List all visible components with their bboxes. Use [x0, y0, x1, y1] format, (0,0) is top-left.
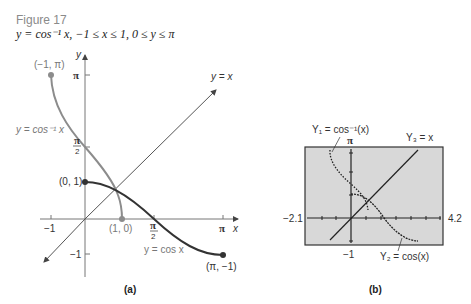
tick-x-pi: π: [219, 222, 225, 234]
xmax-label: 4.2: [448, 213, 462, 224]
svg-text:π: π: [150, 219, 156, 231]
panel-b-label: (b): [369, 284, 382, 295]
label-cosine: y = cos x: [144, 244, 184, 255]
tick-x-neg1: −1: [44, 223, 56, 234]
svg-text:2: 2: [75, 147, 80, 156]
identity-line: [85, 90, 216, 219]
point-neg1-pi: [48, 72, 54, 78]
figure-canvas: −1 π 2 π x y π π 2 −1 (−1, π) (1, 0) (0,…: [0, 0, 471, 304]
label-neg1-pi: (−1, π): [34, 59, 65, 70]
label-identity: y = x: [210, 71, 233, 82]
x-axis-label: x: [232, 223, 239, 234]
point-1-0: [119, 216, 125, 222]
panel-b: −2.1 4.2 −1 π Y₁ = cos⁻¹(x) Y₃ = x Y₂ = …: [283, 124, 462, 295]
ymin-label: −1: [343, 249, 355, 260]
label-y3: Y₃ = x: [406, 132, 433, 143]
label-inverse-cosine: y = cos⁻¹ x: [15, 124, 65, 135]
label-y1: Y₁ = cos⁻¹(x): [312, 124, 369, 135]
label-1-0: (1, 0): [109, 223, 132, 234]
point-0-1: [82, 179, 88, 185]
label-y2: Y₂ = cos(x): [380, 251, 429, 262]
label-pi-neg1: (π, −1): [206, 261, 237, 272]
label-0-1: (0, 1): [59, 176, 82, 187]
y-axis-label: y: [75, 49, 82, 60]
tick-y-neg1: −1: [70, 249, 82, 260]
panel-a: −1 π 2 π x y π π 2 −1 (−1, π) (1, 0) (0,…: [15, 49, 239, 295]
svg-text:π: π: [74, 134, 80, 146]
calculator-screen: [305, 147, 443, 245]
panel-a-label: (a): [124, 284, 136, 295]
xmin-label: −2.1: [283, 213, 303, 224]
point-pi-neg1: [220, 252, 226, 258]
svg-text:2: 2: [151, 232, 156, 241]
ymax-label: π: [347, 134, 353, 146]
tick-y-pi: π: [73, 69, 79, 81]
